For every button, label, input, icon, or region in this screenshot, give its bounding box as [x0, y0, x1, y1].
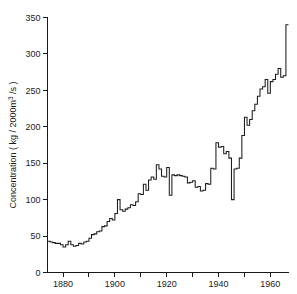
x-axis: 18801900192019401960: [48, 273, 289, 289]
y-tick-label-250: 250: [25, 86, 40, 96]
x-tick-label-1960: 1960: [260, 279, 280, 289]
data-series: [48, 25, 289, 247]
chart-container: 050100150200250300350 188019001920194019…: [0, 0, 297, 294]
x-tick-label-1920: 1920: [157, 279, 177, 289]
y-axis: 050100150200250300350: [25, 13, 47, 278]
x-tick-label-1900: 1900: [105, 279, 125, 289]
y-tick-label-0: 0: [35, 268, 40, 278]
y-axis-title: Concentration ( kg / 2000m3 /s ): [7, 81, 18, 208]
concentration-time-series-chart: 050100150200250300350 188019001920194019…: [0, 0, 297, 294]
y-axis-ticks: [43, 18, 48, 273]
x-axis-tick-labels: 18801900192019401960: [53, 279, 280, 289]
y-tick-label-150: 150: [25, 158, 40, 168]
y-tick-label-100: 100: [25, 195, 40, 205]
y-tick-label-200: 200: [25, 122, 40, 132]
y-tick-label-350: 350: [25, 13, 40, 23]
y-tick-label-300: 300: [25, 49, 40, 59]
y-axis-tick-labels: 050100150200250300350: [25, 13, 40, 278]
x-axis-ticks: [63, 273, 270, 278]
y-axis-title-text: Concentration ( kg / 2000m3 /s ): [7, 81, 18, 208]
x-tick-label-1940: 1940: [209, 279, 229, 289]
x-tick-label-1880: 1880: [53, 279, 73, 289]
y-tick-label-50: 50: [30, 231, 40, 241]
concentration-step-line: [48, 25, 289, 247]
